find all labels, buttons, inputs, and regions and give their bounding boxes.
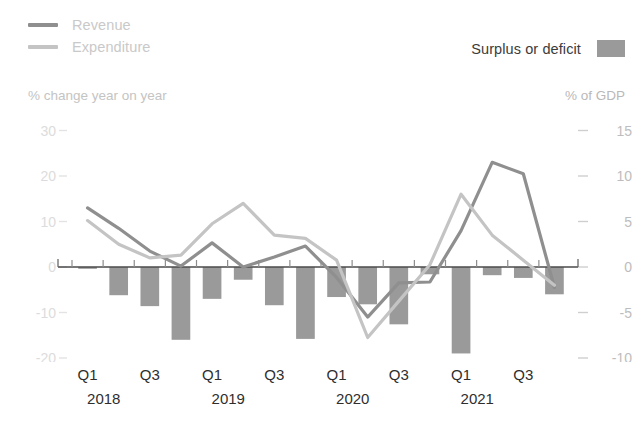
x-axis-labels: Q12018Q3Q12019Q3Q12020Q3Q12021Q3 — [0, 366, 641, 426]
y2-axis-tick-label: 15 — [616, 123, 632, 139]
y2-axis-tick-label: 5 — [624, 214, 632, 230]
bar — [483, 267, 502, 275]
right-axis-caption: % of GDP — [565, 88, 625, 103]
x-axis-year-label: 2020 — [336, 390, 369, 407]
y-axis-tick-label: 10 — [40, 214, 56, 230]
bar — [172, 267, 191, 340]
y-axis-tick-label: 30 — [40, 123, 56, 139]
bar-swatch-icon — [597, 40, 625, 57]
y2-axis-tick-label: -5 — [620, 305, 633, 321]
bar — [109, 267, 128, 295]
bar — [234, 267, 253, 280]
bar — [265, 267, 284, 305]
legend-label-expenditure: Expenditure — [72, 39, 151, 55]
x-axis-quarter-label: Q1 — [202, 366, 222, 383]
x-axis-quarter-label: Q1 — [327, 366, 347, 383]
y-axis-tick-label: -20 — [36, 350, 56, 362]
chart-plot-area: 3020100-10-20151050-5-10 — [0, 110, 641, 362]
x-axis-quarter-label: Q1 — [451, 366, 471, 383]
x-axis-year-label: 2019 — [212, 390, 245, 407]
line-swatch-icon — [28, 23, 58, 27]
legend-lines: Revenue Expenditure — [28, 14, 151, 58]
bar — [514, 267, 533, 278]
left-axis-caption: % change year on year — [28, 88, 167, 103]
legend-item-revenue: Revenue — [28, 14, 151, 36]
legend-item-expenditure: Expenditure — [28, 36, 151, 58]
x-axis-year-label: 2021 — [461, 390, 494, 407]
line-swatch-icon — [28, 45, 58, 49]
x-axis-quarter-label: Q3 — [264, 366, 284, 383]
y-axis-tick-label: 20 — [40, 168, 56, 184]
x-axis-year-label: 2018 — [87, 390, 120, 407]
chart-page: Revenue Expenditure Surplus or deficit %… — [0, 0, 641, 437]
bar — [358, 267, 377, 304]
x-axis-quarter-label: Q3 — [389, 366, 409, 383]
y2-axis-tick-label: -10 — [612, 350, 632, 362]
bar — [452, 267, 471, 353]
bar — [296, 267, 315, 339]
legend-label-surplus-deficit: Surplus or deficit — [471, 41, 581, 57]
bar — [203, 267, 222, 299]
bar — [140, 267, 159, 306]
y2-axis-tick-label: 10 — [616, 168, 632, 184]
bar-series-surplus-deficit — [78, 267, 564, 353]
x-axis-quarter-label: Q1 — [78, 366, 98, 383]
y2-axis-tick-label: 0 — [624, 259, 632, 275]
y-axis-tick-label: 0 — [48, 259, 56, 275]
x-axis-quarter-label: Q3 — [513, 366, 533, 383]
x-axis-quarter-label: Q3 — [140, 366, 160, 383]
legend-bars: Surplus or deficit — [471, 40, 625, 57]
legend-label-revenue: Revenue — [72, 17, 131, 33]
chart-svg: 3020100-10-20151050-5-10 — [0, 110, 641, 362]
y-axis-tick-label: -10 — [36, 305, 56, 321]
